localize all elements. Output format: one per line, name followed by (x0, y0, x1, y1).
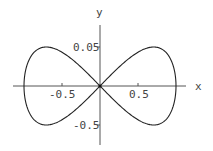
chart: -0.5 0.5 x 0.05 -0.5 y (0, 0, 213, 151)
y-axis-label: y (96, 6, 103, 19)
origin-point (98, 84, 101, 87)
y-tick-label-neg: -0.5 (73, 119, 100, 132)
x-tick-label-pos: 0.5 (129, 88, 149, 101)
y-axis: 0.05 -0.5 y (73, 6, 103, 145)
x-tick-label-neg: -0.5 (49, 88, 76, 101)
x-axis: -0.5 0.5 x (13, 80, 202, 101)
x-axis-label: x (195, 80, 202, 93)
y-tick-label-pos: 0.05 (73, 41, 100, 54)
